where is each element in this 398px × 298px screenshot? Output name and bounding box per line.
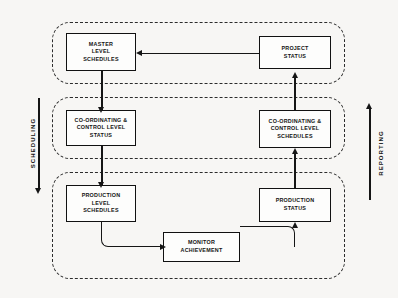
node-label: PROJECT STATUS xyxy=(281,45,308,60)
node-label: MASTER LEVEL SCHEDULES xyxy=(83,41,119,64)
diagram-canvas: MASTER LEVEL SCHEDULES PROJECT STATUS CO… xyxy=(0,0,398,298)
arrowhead-into-coordinating-control-level-schedules xyxy=(292,148,298,154)
node-project-status[interactable]: PROJECT STATUS xyxy=(259,36,331,69)
node-master-level-schedules[interactable]: MASTER LEVEL SCHEDULES xyxy=(66,33,136,71)
scheduling-axis-line xyxy=(38,98,40,190)
arrowhead-into-production-status xyxy=(292,222,298,228)
node-production-status[interactable]: PRODUCTION STATUS xyxy=(259,188,331,222)
reporting-axis-arrowhead xyxy=(366,103,372,109)
edge-project-status-to-master-level-schedules xyxy=(138,53,264,55)
node-monitor-achievement[interactable]: MONITOR ACHIEVEMENT xyxy=(163,232,240,262)
edge-production-schedules-to-monitor-achievement xyxy=(101,222,163,247)
arrowhead-into-production-level-schedules xyxy=(98,182,104,188)
node-label: PRODUCTION LEVEL SCHEDULES xyxy=(82,192,121,215)
reporting-axis-label: REPORTING xyxy=(378,120,384,186)
edge-master-to-coordinating-status xyxy=(101,71,103,111)
node-production-level-schedules[interactable]: PRODUCTION LEVEL SCHEDULES xyxy=(66,185,136,222)
arrowhead-into-project-status xyxy=(292,72,298,78)
arrowhead-into-coordinating-control-level-status xyxy=(98,107,104,113)
reporting-axis-line xyxy=(369,108,371,200)
arrowhead-into-monitor-achievement xyxy=(160,244,166,250)
edge-coordinating-status-to-production-schedules xyxy=(101,146,103,186)
node-label: CO-ORDINATING & CONTROL LEVEL STATUS xyxy=(75,117,128,140)
scheduling-axis-arrowhead xyxy=(35,188,41,194)
node-coordinating-control-level-status[interactable]: CO-ORDINATING & CONTROL LEVEL STATUS xyxy=(66,110,136,146)
scheduling-axis-label: SCHEDULING xyxy=(30,107,36,179)
node-label: CO-ORDINATING & CONTROL LEVEL SCHEDULES xyxy=(269,118,322,141)
node-coordinating-control-level-schedules[interactable]: CO-ORDINATING & CONTROL LEVEL SCHEDULES xyxy=(259,110,331,148)
node-label: PRODUCTION STATUS xyxy=(276,197,315,212)
edge-monitor-achievement-to-production-status xyxy=(240,226,295,247)
node-label: MONITOR ACHIEVEMENT xyxy=(181,239,223,254)
arrowhead-into-master-level-schedules xyxy=(136,50,142,56)
